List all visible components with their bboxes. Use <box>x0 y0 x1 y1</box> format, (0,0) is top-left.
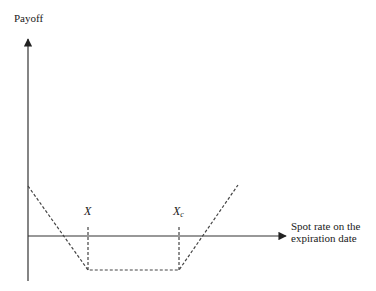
strike-label-xc: Xc <box>173 205 184 221</box>
x-axis-label-line2: expiration date <box>291 232 360 244</box>
x-axis-label: Spot rate on the expiration date <box>291 220 360 244</box>
strike-label-xc-subscript: c <box>180 210 184 219</box>
payoff-line <box>28 185 238 270</box>
y-axis-label: Payoff <box>14 12 43 24</box>
x-axis-label-line1: Spot rate on the <box>291 220 360 232</box>
strike-label-x-text: X <box>84 204 91 218</box>
payoff-diagram <box>0 0 376 291</box>
strike-label-x: X <box>84 205 91 217</box>
